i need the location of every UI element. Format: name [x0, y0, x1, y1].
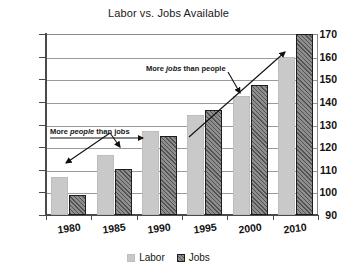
- legend-swatch-labor-icon: [127, 254, 135, 262]
- chart-legend: Labor Jobs: [0, 252, 337, 263]
- x-axis-tick-mark: [273, 215, 274, 220]
- chart-title: Labor vs. Jobs Available: [0, 7, 337, 19]
- annotation-prefix: More: [146, 64, 166, 73]
- x-axis-tick-mark: [182, 215, 183, 220]
- x-axis-tick-mark: [137, 215, 138, 220]
- x-axis-tick-mark: [91, 215, 92, 220]
- bar-labor-1990: [142, 131, 159, 215]
- bar-jobs-1990: [160, 136, 177, 215]
- legend-swatch-jobs-icon: [177, 254, 185, 262]
- legend-label-labor: Labor: [139, 252, 165, 263]
- y-axis-tick-mark: [39, 34, 46, 35]
- bar-labor-2000: [233, 96, 250, 215]
- legend-label-jobs: Jobs: [189, 252, 210, 263]
- y-axis-tick-mark: [39, 79, 46, 80]
- bar-labor-1985: [97, 155, 114, 215]
- y-axis-tick-mark: [39, 102, 46, 103]
- annotation-more-jobs-than-people: More jobs than people: [146, 65, 226, 73]
- gridline: [47, 80, 317, 81]
- gridline: [47, 58, 317, 59]
- y-axis-tick-mark: [39, 170, 46, 171]
- bar-labor-2010: [278, 57, 295, 215]
- y-axis-tick-mark: [39, 215, 46, 216]
- y-axis-tick-mark: [39, 57, 46, 58]
- bar-jobs-1980: [69, 195, 86, 215]
- gridline: [47, 193, 317, 194]
- annotation-more-people-than-jobs: More people than jobs: [50, 128, 130, 136]
- annotation-emphasis: people: [70, 127, 94, 136]
- x-axis-tick-mark: [227, 215, 228, 220]
- y-axis-tick-mark: [39, 147, 46, 148]
- annotation-emphasis: jobs: [166, 64, 181, 73]
- bar-labor-1995: [187, 115, 204, 215]
- annotation-prefix: More: [50, 127, 70, 136]
- y-axis-tick-mark: [39, 192, 46, 193]
- gridline: [47, 148, 317, 149]
- legend-item-labor: Labor: [127, 252, 165, 263]
- bar-jobs-1985: [115, 169, 132, 215]
- gridline: [47, 171, 317, 172]
- x-axis-tick-label-2000: 2000: [229, 220, 270, 237]
- legend-item-jobs: Jobs: [177, 252, 210, 263]
- bar-labor-1980: [51, 177, 68, 215]
- gridline: [47, 103, 317, 104]
- bar-jobs-2010: [296, 34, 313, 215]
- x-axis-tick-label-1985: 1985: [93, 220, 134, 237]
- x-axis-tick-mark: [318, 215, 319, 220]
- y-axis-tick-mark: [39, 125, 46, 126]
- x-axis-tick-mark: [46, 215, 47, 220]
- x-axis-tick-label-2010: 2010: [275, 220, 316, 237]
- chart-container: Labor vs. Jobs Available 901001101201301…: [0, 0, 337, 275]
- annotation-suffix: than people: [181, 64, 225, 73]
- bar-jobs-1995: [205, 110, 222, 215]
- x-axis-tick-label-1980: 1980: [48, 220, 89, 237]
- x-axis-tick-label-1990: 1990: [139, 220, 180, 237]
- bar-jobs-2000: [251, 85, 268, 215]
- x-axis-tick-label-1995: 1995: [184, 220, 225, 237]
- annotation-suffix: than jobs: [94, 127, 129, 136]
